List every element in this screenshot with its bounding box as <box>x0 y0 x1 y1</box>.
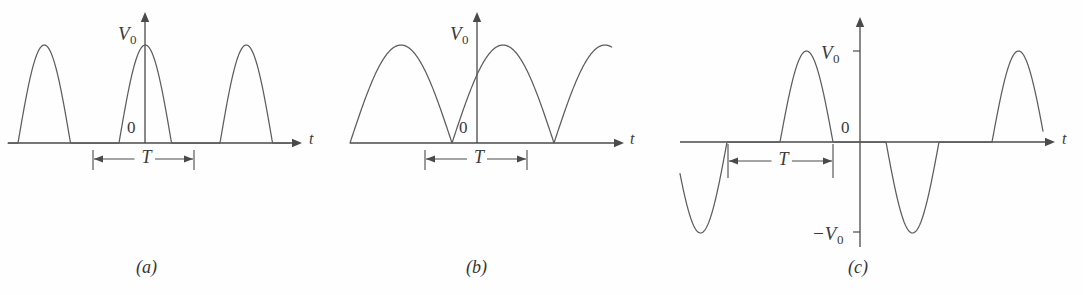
panel-b-time-axis-arrowhead-icon <box>614 139 624 147</box>
panel-a-amplitude-label: V0 <box>118 24 137 46</box>
panel-c-negative-amplitude-label: −V0 <box>812 224 843 246</box>
panel-a-time-axis-label: t <box>309 131 313 147</box>
panel-b: V00tT(b) <box>0 0 1083 295</box>
panel-a-waveform-trace <box>8 45 290 143</box>
rectified-waveform-figure: V00tT(a)V00tT(b)V0−V00tT(c) <box>0 0 1083 295</box>
panel-a-period-dimension <box>93 150 194 170</box>
panel-c-period-dimension <box>728 144 833 178</box>
panel-b-plot <box>0 0 1083 295</box>
panel-c-period-label: T <box>776 150 792 168</box>
panel-c-voltage-axis-arrowhead-icon <box>856 17 864 27</box>
panel-a-voltage-axis-arrowhead-icon <box>141 12 149 22</box>
panel-c-waveform-trace <box>680 51 1043 233</box>
panel-b-amplitude-label: V0 <box>450 24 469 46</box>
panel-a-origin-label: 0 <box>127 119 136 136</box>
panel-b-period-label: T <box>471 148 487 166</box>
panel-b-caption: (b) <box>466 258 487 276</box>
panel-a-plot <box>0 0 1083 295</box>
panel-b-voltage-axis-arrowhead-icon <box>473 12 481 22</box>
panel-c: V0−V00tT(c) <box>0 0 1083 295</box>
panel-c-amplitude-label: V0 <box>821 43 840 65</box>
panel-c-time-axis-label: t <box>1062 131 1066 147</box>
panel-a-period-label: T <box>139 148 155 166</box>
panel-b-period-dimension <box>425 150 527 170</box>
panel-c-caption: (c) <box>848 258 868 276</box>
panel-b-waveform-trace <box>350 45 612 143</box>
panel-a: V00tT(a) <box>0 0 1083 295</box>
panel-b-time-axis-label: t <box>630 131 634 147</box>
panel-b-origin-label: 0 <box>459 119 468 136</box>
panel-a-caption: (a) <box>136 258 157 276</box>
panel-c-origin-label: 0 <box>841 119 850 136</box>
panel-a-time-axis-arrowhead-icon <box>292 139 302 147</box>
panel-c-time-axis-arrowhead-icon <box>1045 138 1055 146</box>
panel-c-plot <box>0 0 1083 295</box>
